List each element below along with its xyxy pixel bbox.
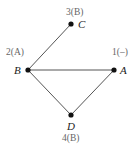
node-b-label: B (14, 65, 21, 76)
node-b (25, 67, 30, 72)
edge-a-d (71, 70, 114, 115)
edge-b-c (28, 24, 71, 70)
node-c-label: C (78, 19, 85, 30)
node-c-annotation: 3(B) (66, 8, 83, 18)
edge-b-d (28, 70, 71, 115)
node-a (111, 67, 116, 72)
node-d (68, 112, 73, 117)
node-b-annotation: 2(A) (6, 48, 24, 58)
node-d-label: D (67, 121, 75, 132)
node-a-annotation: 1(–) (112, 48, 128, 58)
node-d-annotation: 4(B) (62, 134, 79, 144)
node-a-label: A (120, 65, 127, 76)
node-c (68, 21, 73, 26)
